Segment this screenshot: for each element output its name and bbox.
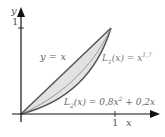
l1-sup: 1,7 bbox=[142, 51, 152, 58]
x-axis-arrow-icon bbox=[150, 110, 160, 118]
lorenz-2-label: L2(x) = 0,8x2 + 0,2x bbox=[64, 96, 155, 109]
lorenz-diagram bbox=[0, 0, 165, 137]
x-axis-label: x bbox=[126, 118, 132, 128]
l1-mid: (x) = x bbox=[112, 53, 142, 63]
x-tick-label: 1 bbox=[112, 118, 118, 128]
y-axis-label: y bbox=[11, 6, 17, 16]
y-tick-label: 1 bbox=[12, 17, 18, 27]
lorenz-1-label: L1(x) = x1,7 bbox=[102, 52, 152, 65]
l2-tail: + 0,2x bbox=[122, 97, 155, 107]
line-of-equality-label: y = x bbox=[40, 52, 66, 62]
y-axis-arrow-icon bbox=[17, 7, 25, 17]
l2-mid: (x) = 0,8x bbox=[74, 97, 119, 107]
